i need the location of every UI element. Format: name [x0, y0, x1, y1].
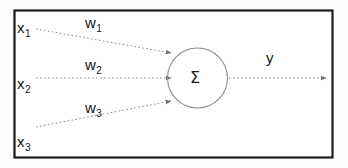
weight-w2-subscript: 2 [96, 65, 102, 76]
input-x2-base: x [17, 75, 25, 92]
weight-w3-base: w [85, 99, 96, 116]
input-x1-subscript: 1 [25, 28, 31, 39]
output-label: y [266, 50, 274, 65]
input-x1-base: x [17, 19, 25, 36]
input-x2: x2 [17, 76, 31, 95]
input-x3-base: x [17, 133, 25, 150]
weight-w3-subscript: 3 [96, 108, 102, 119]
weight-w1-subscript: 1 [96, 23, 102, 34]
input-x1: x1 [17, 20, 31, 39]
summation-symbol: Σ [190, 70, 200, 86]
input-x2-subscript: 2 [25, 84, 31, 95]
weight-w1-base: w [85, 14, 96, 31]
neuron-diagram-canvas: x1 x2 x3 w1 w2 w3 Σ y [0, 0, 348, 168]
neuron-diagram-svg [0, 0, 348, 168]
diagram-frame [15, 11, 333, 158]
weight-w2: w2 [85, 57, 102, 76]
input-x3: x3 [17, 134, 31, 153]
weight-w3: w3 [85, 100, 102, 119]
input-x3-subscript: 3 [25, 142, 31, 153]
weight-w1: w1 [85, 15, 102, 34]
weight-w2-base: w [85, 56, 96, 73]
